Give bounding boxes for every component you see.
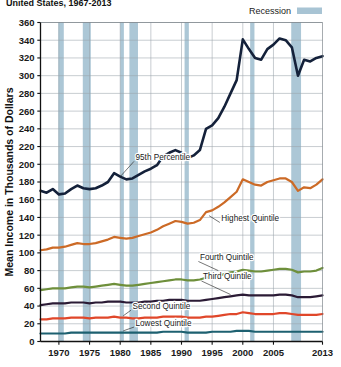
y-axis-title-text: Mean Income in Thousands of Dollars	[3, 87, 15, 276]
x-axis-tick-label: 1975	[79, 347, 101, 358]
y-axis-tick-label: 80	[24, 265, 35, 276]
x-axis-tick-label: 2005	[263, 347, 285, 358]
x-axis-tick-label: 1995	[202, 347, 224, 358]
chart-background	[0, 0, 341, 367]
y-axis-tick-label: 20	[24, 318, 35, 329]
y-axis-tick-label: 320	[19, 52, 35, 63]
y-axis-tick-label: 0	[29, 336, 34, 347]
x-axis-tick-label: 1990	[171, 347, 192, 358]
annotation-label: Highest Quintile	[221, 214, 279, 223]
x-axis-tick-label: 1970	[48, 347, 69, 358]
y-axis-tick-label: 300	[19, 70, 35, 81]
annotation-label: Second Quintile	[132, 302, 190, 311]
y-axis-tick-label: 120	[19, 230, 35, 241]
annotation-label: Third Quintile	[203, 272, 252, 281]
annotation-label: Fourth Quintile	[200, 253, 254, 262]
x-axis-tick-label: 1980	[110, 347, 131, 358]
y-axis-tick-label: 240	[19, 123, 35, 134]
y-axis-tick-label: 360	[19, 17, 35, 28]
chart-title-text: United States, 1967-2013	[6, 0, 112, 8]
y-axis-tick-label: 180	[19, 176, 35, 187]
y-axis-tick-label: 100	[19, 247, 35, 258]
y-axis-tick-label: 280	[19, 88, 35, 99]
y-axis-tick-label: 260	[19, 106, 35, 117]
legend-label-recession: Recession	[249, 6, 291, 16]
y-axis-tick-label: 340	[19, 35, 35, 46]
y-axis-tick-label: 40	[24, 300, 35, 311]
y-axis-tick-label: 60	[24, 283, 35, 294]
chart-figure: United States, 1967-2013 020406080100120…	[0, 0, 341, 367]
y-axis-tick-label: 220	[19, 141, 35, 152]
income-quintiles-line-chart: United States, 1967-2013 020406080100120…	[0, 0, 341, 367]
annotation-label: 95th Percentile	[136, 153, 191, 162]
y-axis-tick-label: 160	[19, 194, 35, 205]
y-axis-tick-label: 200	[19, 159, 35, 170]
y-axis-title: Mean Income in Thousands of Dollars	[3, 87, 15, 276]
chart-title: United States, 1967-2013	[6, 0, 112, 8]
legend-swatch-recession	[297, 8, 322, 15]
x-axis-tick-label: 2013	[312, 347, 333, 358]
x-axis-tick-label: 2000	[232, 347, 253, 358]
y-axis-tick-label: 140	[19, 212, 35, 223]
x-axis-tick-label: 1985	[140, 347, 162, 358]
annotation-label: Lowest Quintile	[136, 319, 192, 328]
